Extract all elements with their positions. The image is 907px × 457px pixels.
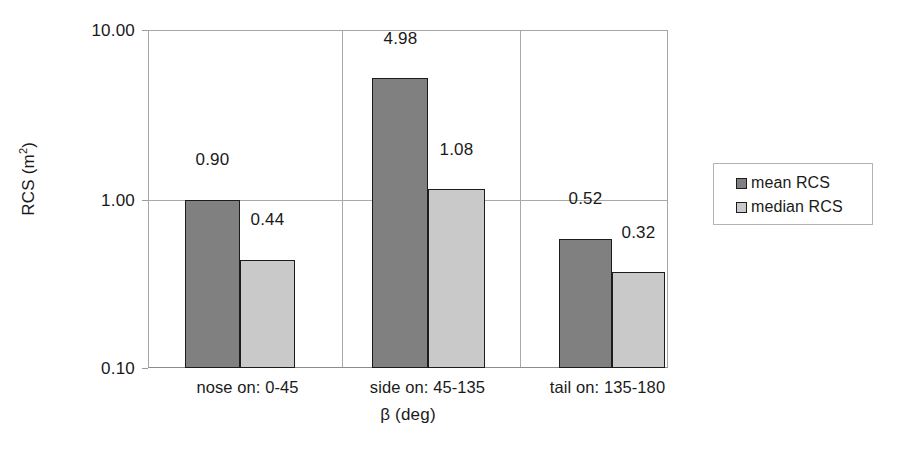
y-axis-title-exponent: 2 — [17, 148, 29, 154]
bar-value-mean-tail-on: 0.52 — [533, 189, 638, 209]
y-axis-title-close: ) — [19, 142, 38, 148]
x-category-label-side-on: side on: 45-135 — [345, 378, 510, 397]
chart-legend: mean RCS median RCS — [713, 163, 873, 225]
bar-value-median-side-on: 1.08 — [404, 140, 509, 160]
y-axis-title-main: RCS (m — [19, 154, 38, 216]
bar-mean-side-on — [372, 78, 428, 368]
bar-value-median-tail-on: 0.32 — [586, 223, 691, 243]
y-tick-mark-0-1 — [142, 368, 148, 369]
legend-item-median-rcs: median RCS — [736, 195, 872, 219]
bar-mean-tail-on — [559, 239, 612, 368]
y-tick-label-1: 1.00 — [55, 192, 135, 209]
legend-swatch-median-rcs — [736, 202, 747, 213]
y-tick-label-0-1: 0.10 — [55, 360, 135, 377]
legend-label-median-rcs: median RCS — [751, 199, 843, 215]
x-category-label-nose-on: nose on: 0-45 — [165, 378, 330, 397]
bar-median-tail-on — [612, 272, 665, 368]
legend-label-mean-rcs: mean RCS — [751, 175, 830, 191]
category-separator-1 — [342, 31, 343, 367]
y-tick-label-10: 10.00 — [55, 22, 135, 39]
legend-swatch-mean-rcs — [736, 178, 747, 189]
rcs-bar-chart-figure: RCS (m2) 10.00 1.00 0.10 0.90 0.44 4.98 … — [0, 0, 907, 457]
bar-value-mean-nose-on: 0.90 — [160, 150, 265, 170]
x-category-label-tail-on: tail on: 135-180 — [525, 378, 690, 397]
legend-item-mean-rcs: mean RCS — [736, 171, 872, 195]
bar-value-mean-side-on: 4.98 — [348, 29, 453, 49]
bar-median-side-on — [428, 189, 485, 368]
bar-median-nose-on — [240, 260, 295, 368]
category-separator-2 — [520, 31, 521, 367]
x-axis-title: β (deg) — [148, 405, 668, 425]
bar-value-median-nose-on: 0.44 — [215, 210, 320, 230]
y-axis-title: RCS (m2) — [17, 99, 39, 259]
